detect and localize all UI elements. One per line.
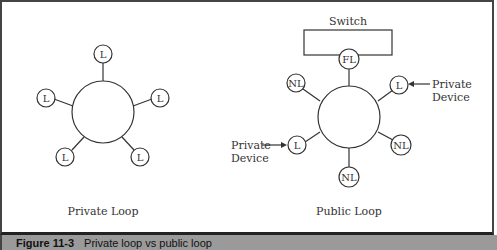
- public-loop-title: Public Loop: [316, 205, 382, 218]
- node-label: NL: [288, 78, 304, 89]
- node-label: L: [137, 152, 144, 163]
- caption-text: Private loop vs public loop: [84, 237, 212, 249]
- private-loop-title: Private Loop: [68, 205, 139, 218]
- node-label: L: [157, 93, 164, 104]
- node-label: NL: [341, 172, 357, 183]
- annotation-line2: Device: [231, 152, 269, 165]
- node-label: NL: [393, 140, 409, 151]
- arrow-icon: [281, 142, 287, 148]
- figure-number: Figure 11-3: [16, 237, 74, 249]
- figure-caption: Figure 11-3Private loop vs public loop: [16, 237, 212, 249]
- node-label: L: [62, 152, 69, 163]
- annotation-line1: Private: [231, 139, 271, 152]
- node-label: L: [294, 140, 301, 151]
- caption-bar: Figure 11-3Private loop vs public loop: [0, 235, 497, 250]
- private-loop-ring: [72, 81, 134, 143]
- annotation-line2: Device: [432, 91, 470, 104]
- switch-label: Switch: [329, 15, 367, 28]
- arrow-icon: [408, 81, 414, 87]
- node-label: L: [396, 80, 403, 91]
- annotation-line1: Private: [432, 78, 472, 91]
- public-loop-ring: [318, 86, 380, 148]
- node-label: L: [100, 49, 107, 60]
- node-label: FL: [342, 54, 356, 65]
- loop-diagram: L L L L L FL NL L L NL NL Switch Private…: [0, 0, 497, 235]
- node-label: L: [43, 93, 50, 104]
